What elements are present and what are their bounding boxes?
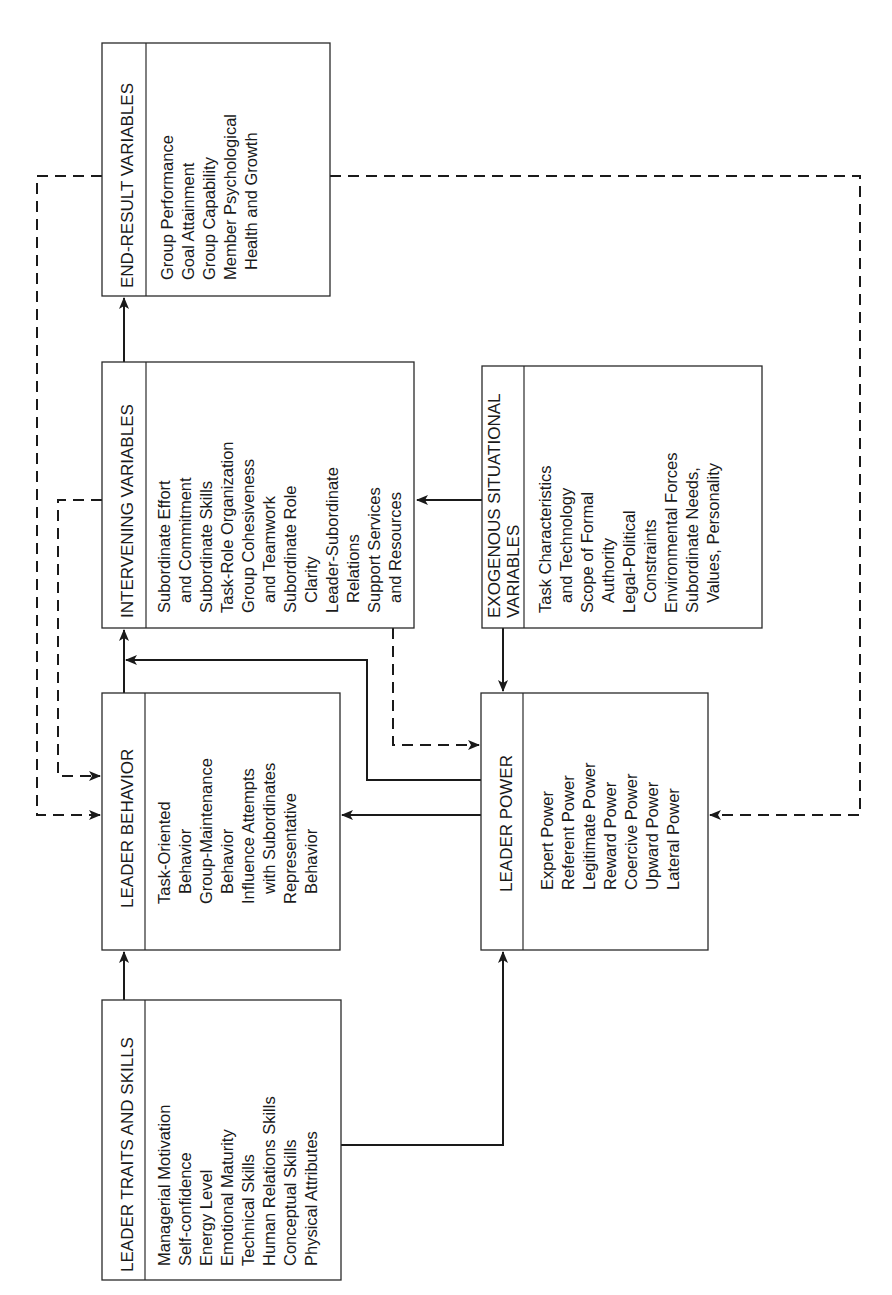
list-item: Human Relations Skills: [260, 1096, 278, 1266]
dashed-arrow-intervening-to-power: [393, 628, 479, 745]
arrow-traits-to-power: [341, 952, 503, 1145]
list-item: Subordinate Skills: [197, 481, 215, 613]
list-item: Group Cohesiveness: [239, 459, 257, 613]
list-item: Relations: [344, 534, 362, 603]
box-title: LEADER TRAITS AND SKILLS: [118, 1037, 137, 1272]
list-item: Physical Attributes: [302, 1131, 320, 1266]
box-leader-power: LEADER POWER Expert Power Referent Power…: [481, 693, 708, 950]
list-item: Constraints: [641, 520, 659, 603]
list-item: Behavior: [302, 828, 320, 894]
list-item: Representative: [281, 793, 299, 904]
list-item: Group Performance: [158, 135, 176, 280]
box-title-line-2: VARIABLES: [504, 525, 523, 618]
box-title: LEADER POWER: [497, 755, 516, 892]
list-item: Leader-Subordinate: [323, 467, 341, 613]
box-leader-traits-and-skills: LEADER TRAITS AND SKILLS Managerial Moti…: [102, 1000, 341, 1280]
box-intervening-variables: INTERVENING VARIABLES Subordinate Effort…: [102, 362, 414, 628]
list-item: Subordinate Role: [281, 485, 299, 613]
list-item: Legitimate Power: [580, 762, 598, 890]
dashed-arrow-intervening-to-behavior: [58, 500, 102, 776]
box-title: INTERVENING VARIABLES: [118, 404, 137, 618]
list-item: and Teamwork: [260, 495, 278, 603]
list-item: Conceptual Skills: [281, 1139, 299, 1266]
list-item: Technical Skills: [239, 1154, 257, 1266]
list-item: Upward Power: [643, 781, 661, 890]
list-item: and Resources: [386, 492, 404, 603]
list-item: Goal Attainment: [179, 162, 197, 280]
list-item: Managerial Motivation: [155, 1105, 173, 1266]
list-item: Behavior: [176, 828, 194, 894]
list-item: and Commitment: [176, 477, 194, 603]
list-item: Subordinate Needs,: [683, 467, 701, 613]
list-item: Coercive Power: [622, 773, 640, 890]
list-item: Member Psychological: [221, 114, 239, 280]
list-item: Influence Attempts: [239, 768, 257, 904]
list-item: Task-Oriented: [155, 801, 173, 904]
list-item: with Subordinates: [260, 763, 278, 895]
list-item: Subordinate Effort: [155, 480, 173, 613]
box-exogenous-situational-variables: EXOGENOUS SITUATIONAL VARIABLES Task Cha…: [482, 366, 762, 628]
list-item: Task-Role Organization: [218, 442, 236, 614]
box-title: END-RESULT VARIABLES: [118, 83, 137, 288]
box-end-result-variables: END-RESULT VARIABLES Group Performance G…: [102, 43, 330, 296]
list-item: Environmental Forces: [662, 453, 680, 613]
list-item: Task Characteristics: [536, 465, 554, 613]
list-item: Energy Level: [197, 1170, 215, 1266]
list-item: Legal-Political: [620, 510, 638, 613]
box-title-line-1: EXOGENOUS SITUATIONAL: [485, 393, 504, 618]
box-leader-behavior: LEADER BEHAVIOR Task-Oriented Behavior G…: [102, 693, 340, 950]
list-item: Clarity: [302, 555, 320, 603]
list-item: Self-confidence: [176, 1152, 194, 1266]
list-item: Referent Power: [559, 775, 577, 890]
list-item: Scope of Formal: [578, 492, 596, 613]
list-item: Health and Growth: [242, 132, 260, 270]
dashed-arrow-endresult-to-behavior: [37, 176, 102, 815]
list-item: Group Capability: [200, 156, 218, 280]
list-item: Expert Power: [538, 790, 556, 890]
leadership-model-diagram: END-RESULT VARIABLES Group Performance G…: [0, 0, 892, 1295]
list-item: Behavior: [218, 828, 236, 894]
list-item: and Technology: [557, 487, 575, 603]
list-item: Emotional Maturity: [218, 1129, 236, 1266]
list-item: Lateral Power: [664, 788, 682, 890]
list-item: Values, Personality: [704, 462, 722, 603]
list-item: Authority: [599, 537, 617, 603]
list-item: Group-Maintenance: [197, 758, 215, 904]
list-item: Reward Power: [601, 781, 619, 890]
list-item: Support Services: [365, 487, 383, 613]
box-title: LEADER BEHAVIOR: [118, 749, 137, 908]
